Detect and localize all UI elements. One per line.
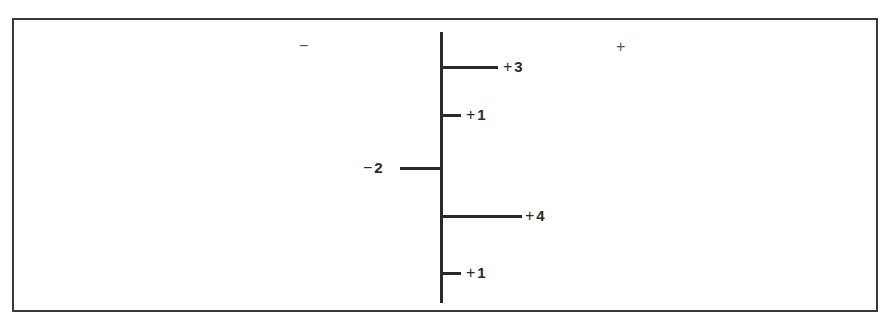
positive-side-label: + [616, 39, 625, 55]
diagram-frame [12, 18, 878, 312]
branch-tick [442, 272, 461, 275]
branch-label: +3 [503, 59, 523, 75]
branch-value: 1 [477, 264, 485, 281]
branch-label: +4 [525, 208, 545, 224]
negative-side-label: − [299, 38, 308, 54]
branch-sign: + [466, 106, 475, 123]
branch-value: 4 [536, 207, 544, 224]
branch-sign: − [363, 159, 372, 176]
branch-tick [442, 215, 522, 218]
branch-tick [442, 66, 498, 69]
branch-sign: + [525, 207, 534, 224]
branch-sign: + [503, 58, 512, 75]
branch-sign: + [466, 264, 475, 281]
branch-label: −2 [363, 160, 383, 176]
branch-value: 1 [477, 106, 485, 123]
branch-tick [400, 167, 441, 170]
branch-label: +1 [466, 265, 486, 281]
branch-value: 3 [514, 58, 522, 75]
branch-value: 2 [374, 159, 382, 176]
branch-tick [442, 114, 461, 117]
branch-label: +1 [466, 107, 486, 123]
